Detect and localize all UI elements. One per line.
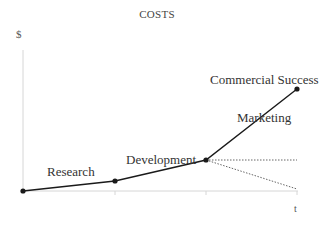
data-point bbox=[294, 86, 299, 91]
data-point bbox=[20, 188, 25, 193]
data-point bbox=[203, 157, 208, 162]
y-axis-label: $ bbox=[16, 29, 22, 40]
phase-label-marketing: Marketing bbox=[237, 111, 291, 124]
x-axis-label: t bbox=[294, 204, 297, 214]
phase-label-research: Research bbox=[47, 165, 95, 178]
chart-title: COSTS bbox=[0, 9, 314, 20]
data-point bbox=[112, 178, 117, 183]
declining-alternative-line bbox=[206, 160, 297, 189]
phase-label-development: Development bbox=[126, 153, 196, 166]
phase-label-commercial-success: Commercial Success bbox=[210, 73, 319, 86]
